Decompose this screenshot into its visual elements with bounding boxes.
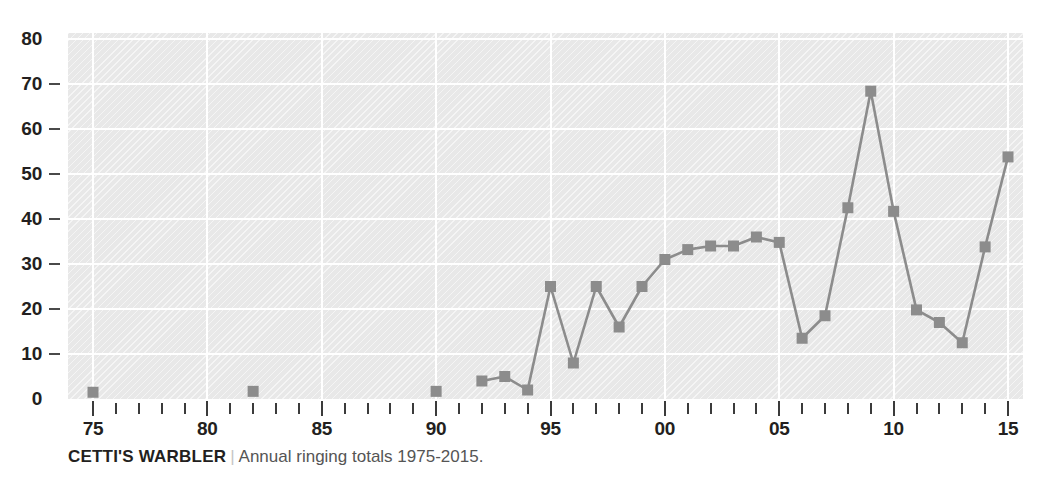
x-axis-tick-mark-minor xyxy=(572,403,574,414)
gridline-vertical xyxy=(92,33,94,399)
y-axis-tick-mark xyxy=(49,353,60,355)
x-axis-tick-mark-minor xyxy=(481,403,483,414)
x-axis-tick-mark-major xyxy=(664,401,666,416)
gridline-horizontal xyxy=(68,128,1023,130)
x-axis-tick-mark-minor xyxy=(916,403,918,414)
x-axis-tick-mark-minor xyxy=(710,403,712,414)
x-axis-tick-mark-minor xyxy=(961,403,963,414)
y-axis-tick-mark xyxy=(49,173,60,175)
x-axis-tick-mark-major xyxy=(778,401,780,416)
gridline-horizontal xyxy=(68,218,1023,220)
y-axis-tick-label: 20 xyxy=(21,298,42,320)
x-axis-tick-mark-minor xyxy=(733,403,735,414)
x-axis-tick-mark-minor xyxy=(344,403,346,414)
x-axis-tick-mark-minor xyxy=(389,403,391,414)
x-axis-tick-mark-major xyxy=(321,401,323,416)
x-axis-tick-mark-minor xyxy=(138,403,140,414)
x-axis-tick-mark-major xyxy=(206,401,208,416)
x-axis-tick-mark-minor xyxy=(687,403,689,414)
x-axis-tick-mark-minor xyxy=(367,403,369,414)
x-axis-tick-mark-major xyxy=(893,401,895,416)
x-axis-tick-mark-minor xyxy=(870,403,872,414)
gridline-vertical xyxy=(893,33,895,399)
x-axis-tick-mark-minor xyxy=(847,403,849,414)
y-axis-tick-label: 10 xyxy=(21,343,42,365)
y-axis-tick-label: 70 xyxy=(21,73,42,95)
x-axis-tick-label: 10 xyxy=(883,418,904,440)
x-axis-tick-mark-minor xyxy=(504,403,506,414)
y-axis-tick-mark xyxy=(49,128,60,130)
caption-subtitle: Annual ringing totals 1975-2015. xyxy=(239,447,484,466)
x-axis-tick-label: 15 xyxy=(998,418,1019,440)
x-axis-tick-mark-minor xyxy=(984,403,986,414)
y-axis-tick-label: 60 xyxy=(21,118,42,140)
chart-figure: 01020304050607080 758085909500051015 CET… xyxy=(0,0,1061,484)
y-axis-tick-label: 50 xyxy=(21,163,42,185)
x-axis-tick-mark-minor xyxy=(938,403,940,414)
gridline-vertical xyxy=(1007,33,1009,399)
gridline-vertical xyxy=(664,33,666,399)
x-axis-tick-mark-minor xyxy=(161,403,163,414)
gridline-vertical xyxy=(435,33,437,399)
gridline-horizontal xyxy=(68,308,1023,310)
x-axis-tick-mark-minor xyxy=(275,403,277,414)
gridline-horizontal xyxy=(68,263,1023,265)
gridline-vertical xyxy=(778,33,780,399)
x-axis-tick-mark-minor xyxy=(595,403,597,414)
y-axis-tick-label: 80 xyxy=(21,28,42,50)
gridline-horizontal xyxy=(68,83,1023,85)
y-axis-tick-mark xyxy=(49,218,60,220)
x-axis-tick-mark-minor xyxy=(298,403,300,414)
x-axis-tick-mark-major xyxy=(92,401,94,416)
chart-caption: CETTI'S WARBLER|Annual ringing totals 19… xyxy=(68,447,483,467)
plot-area xyxy=(68,33,1023,399)
x-axis-tick-mark-minor xyxy=(801,403,803,414)
x-axis-tick-mark-minor xyxy=(252,403,254,414)
gridline-horizontal xyxy=(68,353,1023,355)
x-axis-tick-label: 85 xyxy=(311,418,332,440)
x-axis-tick-label: 75 xyxy=(83,418,104,440)
x-axis-tick-mark-major xyxy=(550,401,552,416)
x-axis-tick-mark-minor xyxy=(115,403,117,414)
y-axis-tick-mark xyxy=(49,263,60,265)
gridline-vertical xyxy=(206,33,208,399)
gridline-horizontal xyxy=(68,173,1023,175)
x-axis-tick-label: 80 xyxy=(197,418,218,440)
x-axis-tick-mark-minor xyxy=(755,403,757,414)
y-axis-tick-label: 30 xyxy=(21,253,42,275)
x-axis-tick-mark-minor xyxy=(824,403,826,414)
x-axis-tick-mark-minor xyxy=(641,403,643,414)
x-axis-tick-mark-minor xyxy=(229,403,231,414)
x-axis-tick-label: 95 xyxy=(540,418,561,440)
x-axis-tick-label: 00 xyxy=(655,418,676,440)
x-axis-tick-mark-minor xyxy=(618,403,620,414)
x-axis-tick-mark-minor xyxy=(412,403,414,414)
y-axis-tick-label: 40 xyxy=(21,208,42,230)
x-axis-tick-mark-minor xyxy=(458,403,460,414)
caption-separator: | xyxy=(226,447,238,466)
x-axis-tick-label: 90 xyxy=(426,418,447,440)
caption-title: CETTI'S WARBLER xyxy=(68,447,226,466)
x-axis-tick-mark-major xyxy=(1007,401,1009,416)
x-axis-tick-mark-minor xyxy=(184,403,186,414)
x-axis-tick-mark-minor xyxy=(527,403,529,414)
gridline-vertical xyxy=(321,33,323,399)
x-axis-tick-label: 05 xyxy=(769,418,790,440)
y-axis-tick-mark xyxy=(49,308,60,310)
y-axis-tick-mark xyxy=(49,83,60,85)
gridline-horizontal xyxy=(68,38,1023,40)
x-axis-tick-mark-major xyxy=(435,401,437,416)
x-axis: 758085909500051015 xyxy=(0,399,1061,444)
gridline-vertical xyxy=(550,33,552,399)
